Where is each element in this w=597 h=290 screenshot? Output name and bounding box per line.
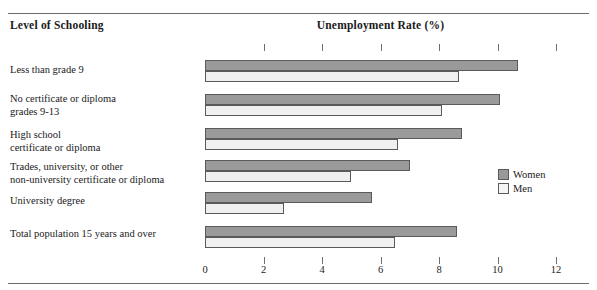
category-label: University degree — [10, 195, 85, 208]
bar-women — [205, 192, 372, 203]
x-axis-tick-top — [322, 44, 323, 51]
bar-women — [205, 94, 500, 105]
legend-swatch-women — [498, 169, 509, 180]
x-axis-tick — [556, 257, 557, 264]
x-axis-tick-top — [439, 44, 440, 51]
bar-men — [205, 105, 442, 116]
x-axis-tick — [498, 257, 499, 264]
x-axis-tick-top — [498, 44, 499, 51]
legend-item-men: Men — [498, 181, 545, 195]
bar-men — [205, 139, 398, 150]
bar-men — [205, 237, 395, 248]
category-label: Total population 15 years and over — [10, 228, 156, 241]
x-axis-tick-label: 10 — [486, 264, 510, 275]
legend-label-women: Women — [513, 169, 545, 180]
x-axis-tick-label: 12 — [544, 264, 568, 275]
category-label: High school certificate or diploma — [10, 129, 100, 154]
bar-women — [205, 226, 457, 237]
chart-legend: Women Men — [498, 167, 545, 195]
x-axis-tick-label: 8 — [427, 264, 451, 275]
legend-label-men: Men — [513, 183, 532, 194]
bar-men — [205, 71, 459, 82]
x-axis-tick — [322, 257, 323, 264]
x-axis-tick — [439, 257, 440, 264]
x-axis-tick-label: 6 — [369, 264, 393, 275]
bar-women — [205, 60, 518, 71]
bottom-divider-rule — [8, 283, 589, 284]
bar-chart-plot-area: 024681012Less than grade 9No certificate… — [0, 0, 597, 290]
legend-swatch-men — [498, 183, 509, 194]
x-axis-tick-top — [556, 44, 557, 51]
x-axis-tick — [381, 257, 382, 264]
x-axis-tick-label: 2 — [252, 264, 276, 275]
category-label: No certificate or diploma grades 9-13 — [10, 93, 116, 118]
bar-men — [205, 171, 351, 182]
x-axis-tick-top — [264, 44, 265, 51]
category-label: Trades, university, or other non-univers… — [10, 161, 164, 186]
bar-men — [205, 203, 284, 214]
x-axis-tick — [264, 257, 265, 264]
bar-women — [205, 128, 462, 139]
legend-item-women: Women — [498, 167, 545, 181]
bar-women — [205, 160, 410, 171]
category-label: Less than grade 9 — [10, 64, 84, 77]
x-axis-tick-label: 0 — [193, 264, 217, 275]
x-axis-tick-top — [381, 44, 382, 51]
x-axis-tick-label: 4 — [310, 264, 334, 275]
